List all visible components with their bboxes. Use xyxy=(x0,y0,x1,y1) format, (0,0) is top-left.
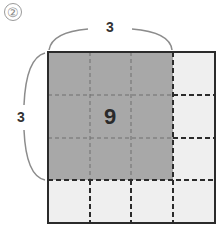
shaded-area-label: 9 xyxy=(104,104,116,130)
top-brace-label: 3 xyxy=(103,19,117,35)
left-brace-label: 3 xyxy=(14,109,28,125)
